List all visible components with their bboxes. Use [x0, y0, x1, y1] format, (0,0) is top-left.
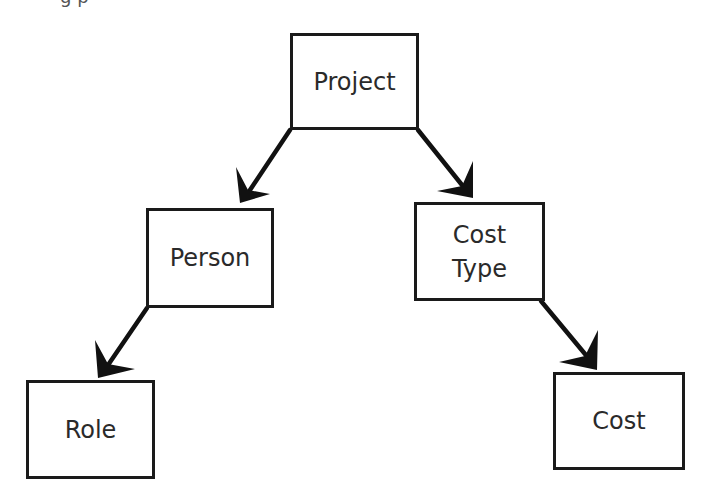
node-label-person: Person [170, 241, 251, 275]
arrow-project-to-person [236, 130, 290, 203]
node-label-cost-type-line1: Cost [453, 218, 506, 252]
node-label-cost: Cost [592, 404, 645, 438]
node-label-project: Project [313, 65, 395, 99]
arrow-project-to-cost-type [418, 130, 473, 198]
arrow-person-to-role [95, 308, 147, 378]
node-cost: Cost [553, 372, 685, 470]
node-role: Role [26, 380, 155, 479]
node-cost-type: Cost Type [414, 202, 545, 301]
node-label-cost-type-line2: Type [452, 252, 507, 286]
arrow-cost-type-to-cost [541, 301, 598, 370]
node-person: Person [146, 208, 274, 308]
node-project: Project [290, 33, 419, 130]
node-label-role: Role [65, 413, 117, 447]
